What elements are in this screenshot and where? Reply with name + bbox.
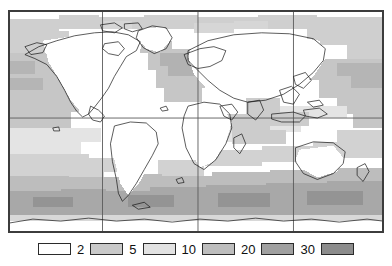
world-map-svg xyxy=(9,11,383,232)
legend-swatch-20-to-30 xyxy=(261,243,294,255)
figure-root: 2 5 10 20 30 xyxy=(0,0,392,266)
legend-label-5: 5 xyxy=(123,243,142,256)
legend-swatch-lt-2 xyxy=(38,243,71,255)
legend-swatch-10-to-20 xyxy=(202,243,235,255)
legend-label-10: 10 xyxy=(176,243,202,256)
legend-label-20: 20 xyxy=(235,243,261,256)
legend-label-30: 30 xyxy=(294,243,320,256)
legend: 2 5 10 20 30 xyxy=(0,240,392,258)
legend-swatch-2-to-5 xyxy=(90,243,123,255)
world-map-panel xyxy=(8,10,384,233)
legend-swatch-gt-30 xyxy=(321,243,354,255)
legend-label-2: 2 xyxy=(71,243,90,256)
legend-swatch-5-to-10 xyxy=(143,243,176,255)
